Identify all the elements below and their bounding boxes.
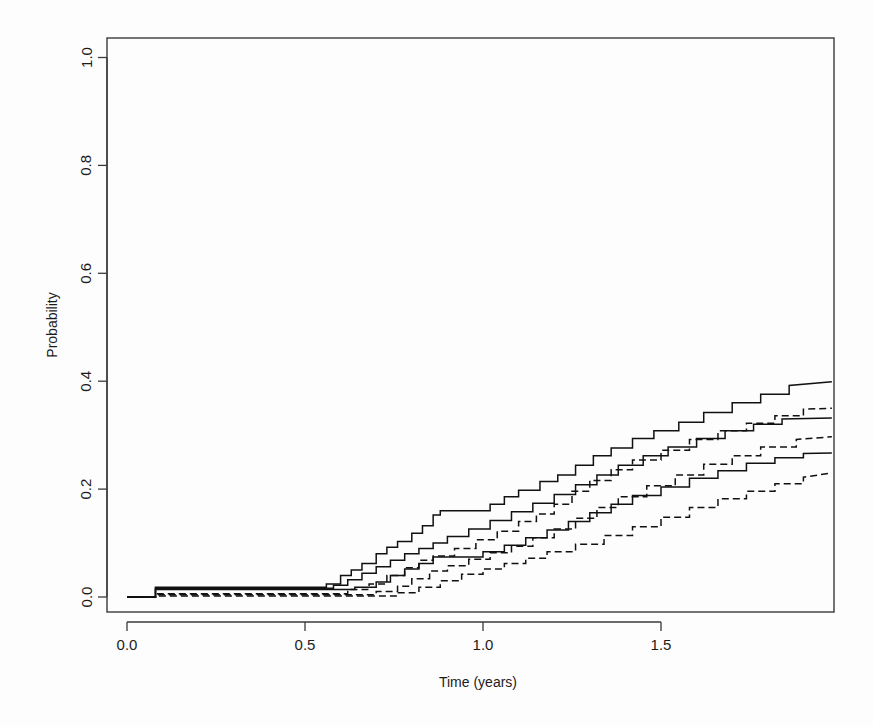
plot-panel-border	[107, 38, 834, 612]
figure-canvas: 0.00.20.40.60.81.0 0.00.51.01.5 Probabil…	[0, 0, 873, 727]
curve-3-middle-solid	[127, 418, 832, 597]
y-tick-label: 0.2	[78, 479, 95, 500]
curve-5-lower-solid	[127, 453, 832, 597]
y-tick-label: 0.0	[78, 587, 95, 608]
x-tick-label: 0.5	[295, 636, 316, 653]
curve-6-bottom-dashed	[127, 473, 832, 597]
chart-svg: 0.00.20.40.60.81.0 0.00.51.01.5 Probabil…	[0, 0, 873, 727]
x-tick-label: 0.0	[117, 636, 138, 653]
x-axis	[127, 622, 661, 631]
x-tick-labels: 0.00.51.01.5	[117, 636, 672, 653]
x-tick-label: 1.0	[473, 636, 494, 653]
y-tick-labels: 0.00.20.40.60.81.0	[78, 47, 95, 607]
y-tick-label: 0.6	[78, 263, 95, 284]
curve-1-upper-solid	[127, 382, 832, 597]
x-tick-label: 1.5	[651, 636, 672, 653]
series-curves	[127, 382, 832, 597]
curve-4-dashed	[127, 437, 832, 597]
y-tick-label: 1.0	[78, 47, 95, 68]
x-axis-title: Time (years)	[439, 674, 517, 690]
curve-2-dashed	[127, 408, 832, 597]
y-axis	[98, 58, 107, 598]
y-tick-label: 0.4	[78, 371, 95, 392]
y-tick-label: 0.8	[78, 155, 95, 176]
y-axis-title: Probability	[44, 292, 60, 357]
